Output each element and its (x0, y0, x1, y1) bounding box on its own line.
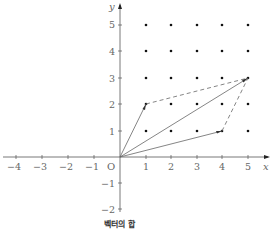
svg-text:3: 3 (194, 161, 200, 172)
svg-text:1: 1 (143, 161, 149, 172)
x-axis-arrow-icon (264, 155, 270, 159)
svg-text:−2: −2 (101, 204, 115, 215)
arrowheads (143, 78, 249, 134)
svg-text:3: 3 (109, 73, 115, 84)
svg-text:−3: −3 (33, 161, 47, 172)
lattice-points (145, 24, 250, 133)
origin-label: O (107, 161, 115, 172)
arrow-b-icon (216, 131, 222, 134)
svg-text:−2: −2 (59, 161, 73, 172)
svg-text:2: 2 (109, 99, 115, 110)
figure-caption: 벡터의 합 (104, 218, 135, 229)
arrow-a-icon (143, 104, 147, 110)
x-axis-label: x (263, 161, 269, 172)
svg-text:2: 2 (168, 161, 174, 172)
dashed-edge-top (146, 78, 248, 104)
x-tick-labels: −4 −3 −2 −1 1 2 3 4 5 (7, 161, 251, 172)
svg-text:1: 1 (109, 126, 115, 137)
vector-b (120, 131, 222, 157)
svg-text:−1: −1 (101, 178, 115, 189)
y-axis-arrow-icon (118, 3, 122, 9)
svg-text:5: 5 (245, 161, 251, 172)
svg-text:−1: −1 (85, 161, 99, 172)
svg-text:5: 5 (109, 19, 115, 30)
y-tick-labels: 5 4 3 2 1 −1 −2 (101, 19, 115, 215)
axes (3, 5, 268, 212)
vector-sum-diagram: −4 −3 −2 −1 1 2 3 4 5 5 4 3 2 1 −1 −2 O … (0, 0, 277, 237)
svg-text:−4: −4 (7, 161, 21, 172)
y-axis-label: y (108, 1, 115, 12)
svg-text:4: 4 (109, 46, 115, 57)
svg-text:4: 4 (219, 161, 225, 172)
